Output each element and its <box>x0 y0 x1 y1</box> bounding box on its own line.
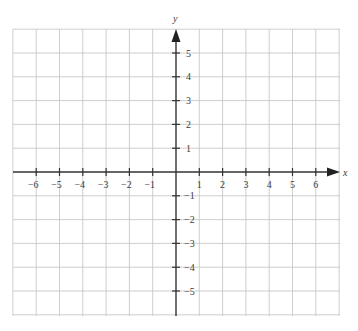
y-tick-label: 1 <box>186 143 191 154</box>
x-tick-label: −4 <box>74 179 85 190</box>
y-tick-label: 2 <box>186 119 191 130</box>
x-tick-label: −1 <box>144 179 155 190</box>
y-tick-label: −2 <box>184 214 195 225</box>
y-axis-label: y <box>172 13 178 24</box>
y-tick-label: 4 <box>186 71 191 82</box>
x-tick-label: 3 <box>243 179 248 190</box>
x-tick-label: 5 <box>290 179 295 190</box>
x-tick-label: 1 <box>197 179 202 190</box>
axes: x y <box>13 13 348 316</box>
x-tick-label: −6 <box>28 179 39 190</box>
y-tick-label: −5 <box>184 286 195 297</box>
y-tick-label: 3 <box>186 95 191 106</box>
coordinate-plane: x y −6−5−4−3−2−1123456−5−4−3−2−112345 <box>0 0 358 331</box>
x-tick-label: 6 <box>313 179 318 190</box>
x-axis-arrow-icon <box>327 168 340 177</box>
x-tick-label: −2 <box>121 179 132 190</box>
y-axis-arrow-icon <box>172 29 181 42</box>
y-tick-label: −4 <box>184 262 195 273</box>
y-tick-label: 5 <box>186 48 191 59</box>
x-tick-label: 4 <box>267 179 272 190</box>
y-tick-label: −1 <box>184 190 195 201</box>
x-tick-label: −3 <box>98 179 109 190</box>
y-tick-label: −3 <box>184 238 195 249</box>
x-axis-label: x <box>342 167 348 178</box>
x-tick-label: 2 <box>220 179 225 190</box>
x-tick-label: −5 <box>51 179 62 190</box>
